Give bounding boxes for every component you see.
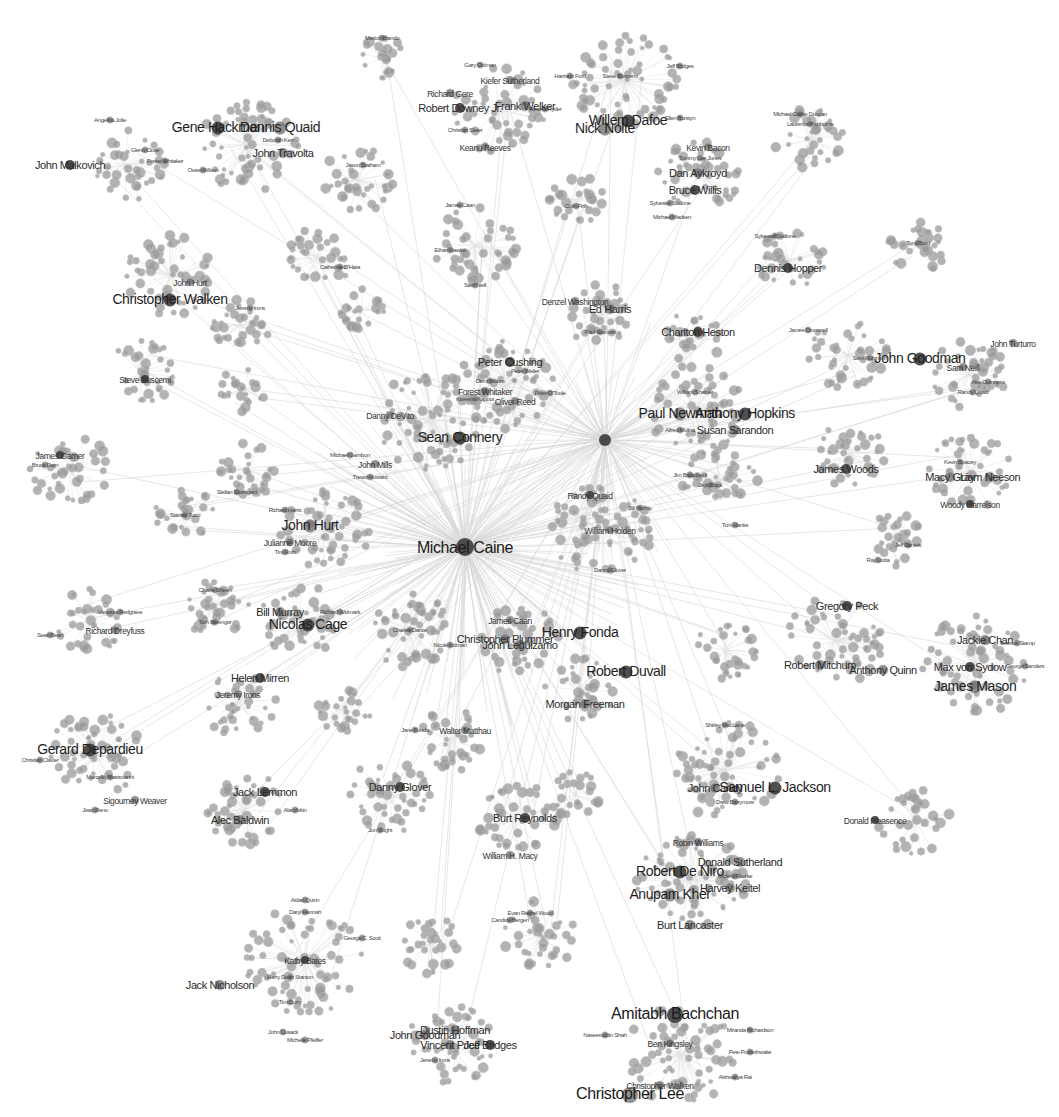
actor-node[interactable]	[976, 647, 985, 656]
actor-node[interactable]	[855, 445, 861, 451]
actor-node[interactable]	[573, 553, 581, 561]
actor-node[interactable]	[832, 628, 842, 638]
actor-node[interactable]	[265, 828, 272, 835]
actor-node[interactable]	[362, 543, 369, 550]
actor-node[interactable]	[324, 723, 330, 729]
actor-node[interactable]	[906, 248, 912, 254]
actor-node[interactable]	[895, 797, 900, 802]
actor-node[interactable]	[441, 389, 447, 395]
actor-node[interactable]	[257, 165, 263, 171]
actor-node[interactable]	[561, 504, 568, 511]
actor-node[interactable]	[365, 528, 373, 536]
actor-node[interactable]	[344, 184, 352, 192]
actor-node[interactable]	[555, 518, 561, 524]
actor-node[interactable]	[359, 805, 363, 809]
actor-node[interactable]	[835, 614, 841, 620]
actor-node[interactable]	[458, 1004, 465, 1011]
actor-node[interactable]	[72, 757, 76, 761]
actor-node[interactable]	[75, 607, 82, 614]
actor-node[interactable]	[880, 549, 888, 557]
actor-node[interactable]	[720, 805, 724, 809]
actor-node[interactable]	[168, 238, 177, 247]
actor-node[interactable]	[450, 417, 456, 423]
actor-node[interactable]	[415, 602, 422, 609]
actor-node[interactable]	[567, 174, 577, 184]
actor-node[interactable]	[449, 923, 455, 929]
actor-node[interactable]	[216, 337, 223, 344]
actor-node[interactable]	[706, 364, 714, 372]
actor-node[interactable]	[853, 482, 858, 487]
actor-node[interactable]	[437, 648, 443, 654]
actor-node[interactable]	[813, 642, 821, 650]
actor-node[interactable]	[938, 484, 948, 494]
actor-node[interactable]	[998, 364, 1004, 370]
actor-node[interactable]	[247, 160, 256, 169]
actor-node[interactable]	[203, 147, 207, 151]
actor-node[interactable]	[161, 345, 166, 350]
actor-node[interactable]	[143, 240, 153, 250]
actor-node[interactable]	[437, 943, 447, 953]
actor-node[interactable]	[79, 722, 88, 731]
actor-node[interactable]	[90, 607, 96, 613]
actor-node[interactable]	[602, 66, 609, 73]
actor-node[interactable]	[46, 491, 56, 501]
actor-node[interactable]	[567, 802, 573, 808]
actor-node[interactable]	[328, 556, 333, 561]
actor-node[interactable]	[81, 608, 87, 614]
actor-node[interactable]	[944, 809, 954, 819]
actor-node[interactable]	[352, 782, 357, 787]
actor-node[interactable]	[698, 315, 703, 320]
actor-node[interactable]	[239, 155, 246, 162]
actor-node[interactable]	[330, 234, 339, 243]
actor-node[interactable]	[314, 642, 321, 649]
actor-node[interactable]	[607, 539, 613, 545]
actor-node[interactable]	[366, 321, 372, 327]
actor-node[interactable]	[287, 921, 295, 929]
actor-node[interactable]	[476, 204, 485, 213]
actor-node[interactable]	[440, 1079, 447, 1086]
actor-node[interactable]	[695, 776, 701, 782]
actor-node[interactable]	[478, 1063, 488, 1073]
actor-node[interactable]	[438, 413, 442, 417]
actor-node[interactable]	[542, 684, 548, 690]
actor-node[interactable]	[475, 271, 479, 275]
actor-node[interactable]	[101, 457, 110, 466]
actor-node[interactable]	[356, 205, 362, 211]
actor-node[interactable]	[143, 138, 148, 143]
actor-node[interactable]	[319, 256, 326, 263]
actor-node[interactable]	[812, 337, 817, 342]
actor-node[interactable]	[491, 833, 499, 841]
actor-node[interactable]	[321, 534, 326, 539]
actor-node[interactable]	[798, 257, 802, 261]
actor-node[interactable]	[900, 554, 909, 563]
actor-node[interactable]	[869, 435, 875, 441]
actor-node[interactable]	[346, 926, 354, 934]
actor-node[interactable]	[752, 476, 762, 486]
actor-node[interactable]	[849, 336, 855, 342]
actor-node[interactable]	[418, 406, 427, 415]
actor-node[interactable]	[846, 429, 855, 438]
actor-node[interactable]	[886, 235, 896, 245]
actor-node[interactable]	[658, 1023, 668, 1033]
actor-node[interactable]	[374, 297, 382, 305]
actor-node[interactable]	[652, 428, 660, 436]
actor-node[interactable]	[100, 481, 109, 490]
actor-node[interactable]	[327, 546, 334, 553]
actor-node[interactable]	[236, 174, 246, 184]
actor-node[interactable]	[602, 519, 609, 526]
actor-node[interactable]	[229, 171, 233, 175]
actor-node[interactable]	[879, 541, 884, 546]
actor-node[interactable]	[572, 510, 577, 515]
actor-node[interactable]	[158, 258, 164, 264]
actor-node[interactable]	[711, 811, 718, 818]
actor-node[interactable]	[527, 929, 532, 934]
actor-node[interactable]	[924, 657, 932, 665]
actor-node[interactable]	[583, 83, 587, 87]
actor-node[interactable]	[226, 597, 235, 606]
actor-node[interactable]	[677, 1027, 687, 1037]
actor-node[interactable]	[572, 537, 579, 544]
actor-node[interactable]	[342, 178, 349, 185]
actor-node[interactable]	[140, 397, 146, 403]
actor-node[interactable]	[131, 181, 141, 191]
actor-node[interactable]	[724, 623, 730, 629]
